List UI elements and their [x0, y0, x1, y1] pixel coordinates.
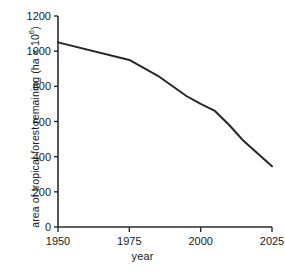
y-axis-tick-label: 400	[33, 151, 51, 163]
chart-canvas	[0, 0, 285, 271]
y-axis-tick-label: 800	[33, 80, 51, 92]
axis-ticks	[54, 16, 272, 232]
x-axis-tick-label: 2025	[260, 235, 284, 247]
line-chart: area of tropical forest remaining (ha × …	[0, 0, 285, 271]
y-axis-tick-label: 1200	[27, 10, 51, 22]
y-axis-tick-label: 200	[33, 186, 51, 198]
x-axis-tick-label: 1975	[117, 235, 141, 247]
y-axis-tick-label: 0	[45, 221, 51, 233]
y-axis-tick-label: 600	[33, 116, 51, 128]
data-series-line	[58, 42, 272, 166]
x-axis-tick-label: 2000	[188, 235, 212, 247]
y-axis-tick-label: 1000	[27, 45, 51, 57]
x-axis-tick-label: 1950	[46, 235, 70, 247]
